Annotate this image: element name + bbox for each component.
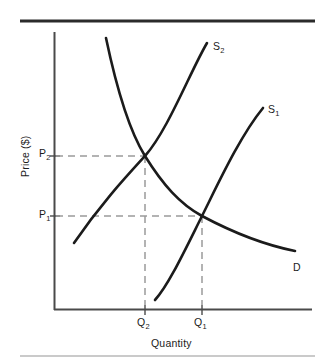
supply-curve-s1: [155, 108, 263, 300]
curve-label-s2-subscript: 2: [220, 46, 224, 55]
supply-demand-figure: S2 S1 D P2 P1 Q2 Q1 Quantity Price ($): [0, 0, 331, 364]
x-tick-label-q2-subscript: 2: [145, 322, 149, 331]
curve-label-s2: S2: [213, 41, 225, 55]
y-axis-title: Price ($): [20, 127, 31, 185]
y-tick-label-p2-subscript: 2: [46, 153, 50, 162]
y-tick-label-p1-subscript: 1: [46, 214, 50, 223]
x-tick-label-q2: Q2: [137, 317, 150, 331]
curve-label-s1-subscript: 1: [275, 109, 279, 118]
y-tick-label-p2: P2: [39, 148, 51, 162]
curve-label-s1: S1: [268, 104, 280, 118]
x-axis-title: Quantity: [151, 338, 192, 349]
y-tick-label-p1: P1: [39, 209, 51, 223]
supply-curve-s2: [74, 43, 207, 243]
x-tick-label-q1-subscript: 1: [202, 322, 206, 331]
chart-canvas: [0, 0, 331, 364]
curve-label-d: D: [293, 262, 301, 273]
x-tick-label-q1: Q1: [194, 317, 207, 331]
